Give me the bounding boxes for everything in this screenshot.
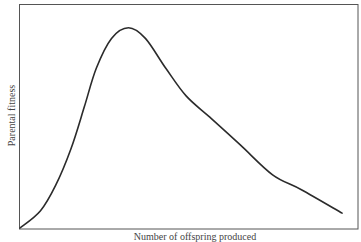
chart-canvas xyxy=(0,0,361,242)
plot-frame xyxy=(20,5,359,230)
x-axis-label: Number of offspring produced xyxy=(115,231,275,242)
fitness-curve xyxy=(20,28,342,228)
y-axis-label: Parental fitness xyxy=(6,71,17,161)
